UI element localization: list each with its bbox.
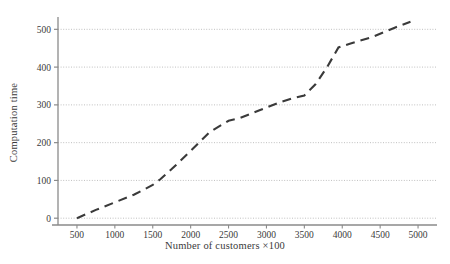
y-axis-title: Computation time — [8, 63, 19, 183]
chart-figure: 0100200300400500 50010001500200025003000… — [0, 0, 450, 264]
x-tick-label-1500: 1500 — [143, 230, 162, 240]
x-axis-ticks: 500100015002000250030003500400045005000 — [70, 225, 428, 240]
x-tick-label-5000: 5000 — [409, 230, 428, 240]
x-tick-label-1000: 1000 — [105, 230, 124, 240]
y-tick-label-100: 100 — [37, 176, 52, 186]
x-tick-label-2000: 2000 — [181, 230, 200, 240]
grid-lines — [58, 29, 437, 218]
series-line-0 — [77, 22, 411, 218]
y-tick-label-500: 500 — [37, 25, 52, 35]
line-chart: 0100200300400500 50010001500200025003000… — [0, 0, 450, 264]
x-tick-label-4500: 4500 — [371, 230, 390, 240]
x-tick-label-3000: 3000 — [257, 230, 276, 240]
x-axis-title: Number of customers ×100 — [0, 240, 450, 251]
y-axis-ticks: 0100200300400500 — [37, 25, 58, 224]
x-tick-label-3500: 3500 — [295, 230, 314, 240]
y-tick-label-400: 400 — [37, 63, 52, 73]
y-tick-label-200: 200 — [37, 138, 52, 148]
data-series-computation-time — [77, 22, 411, 218]
x-tick-label-2500: 2500 — [219, 230, 238, 240]
x-tick-label-4000: 4000 — [333, 230, 352, 240]
y-tick-label-0: 0 — [46, 214, 51, 224]
x-tick-label-500: 500 — [70, 230, 85, 240]
y-tick-label-300: 300 — [37, 100, 52, 110]
